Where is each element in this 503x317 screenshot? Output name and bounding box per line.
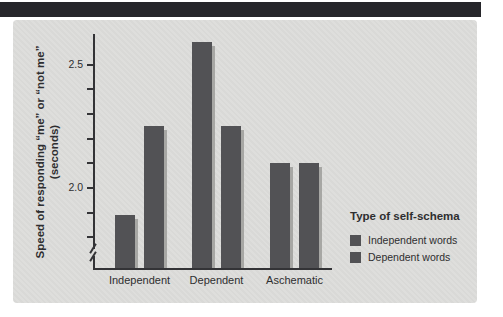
legend-item-label: Dependent words	[368, 251, 450, 263]
x-axis-label-aschematic: Aschematic	[266, 274, 323, 286]
legend-swatch-icon	[350, 235, 361, 246]
bar-dependent-independent-words	[192, 42, 212, 268]
legend-swatch-icon	[350, 252, 361, 263]
y-axis-label-line2: (seconds)	[47, 46, 61, 259]
legend-item: Dependent words	[350, 251, 460, 263]
y-axis-line	[93, 34, 95, 270]
bar-independent-dependent-words	[144, 126, 164, 268]
y-axis-tick	[87, 187, 93, 189]
bar-dependent-dependent-words	[221, 126, 241, 268]
y-axis-tick	[87, 113, 93, 115]
bar-independent-independent-words	[115, 215, 135, 268]
y-axis-tick	[87, 64, 93, 66]
bar-aschematic-dependent-words	[299, 163, 319, 268]
x-axis-line	[93, 268, 332, 270]
y-axis-tick	[87, 162, 93, 164]
x-axis-label-independent: Independent	[109, 274, 170, 286]
bar-aschematic-independent-words	[270, 163, 290, 268]
bar-chart: 2.52.0IndependentDependentAschematic	[0, 0, 503, 317]
x-axis-label-dependent: Dependent	[190, 274, 244, 286]
legend-items: Independent wordsDependent words	[350, 234, 460, 263]
y-axis-tick	[87, 138, 93, 140]
legend-item-label: Independent words	[368, 234, 457, 246]
legend-item: Independent words	[350, 234, 460, 246]
y-axis-label-line1: Speed of responding “me” or “not me”	[34, 46, 48, 259]
y-axis-tick	[87, 236, 93, 238]
y-axis-tick	[87, 88, 93, 90]
y-axis-tick	[87, 212, 93, 214]
y-axis-label: Speed of responding “me” or “not me” (se…	[34, 46, 61, 259]
legend: Type of self-schema Independent wordsDep…	[350, 210, 460, 268]
legend-title: Type of self-schema	[350, 210, 460, 222]
figure-page: 2.52.0IndependentDependentAschematic Spe…	[0, 0, 503, 317]
